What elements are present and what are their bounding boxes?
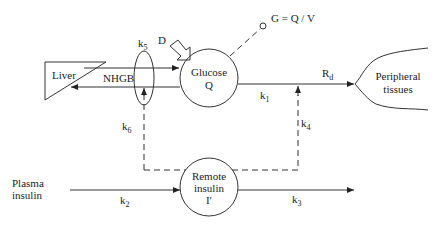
svg-text:tissues: tissues — [383, 83, 412, 95]
svg-text:Peripheral: Peripheral — [375, 70, 420, 82]
dose-input-arrow-icon — [170, 40, 190, 60]
k5-label: k5 — [138, 37, 148, 52]
k2-label: k2 — [120, 194, 130, 209]
k4-dashed-line — [232, 95, 298, 170]
k3-label: k3 — [292, 193, 302, 208]
svg-text:Q: Q — [205, 79, 213, 91]
k1-label: k1 — [260, 89, 270, 104]
liver-label: Liver — [52, 69, 76, 81]
peripheral-tissues-node: Peripheral tissues — [355, 48, 428, 110]
measurement-probe-icon — [260, 23, 266, 29]
svg-text:Glucose: Glucose — [191, 66, 227, 78]
dose-label: D — [158, 34, 166, 46]
k4-label: k4 — [301, 117, 311, 132]
svg-text:insulin: insulin — [194, 182, 224, 194]
glucose-compartment: Glucose Q — [180, 49, 238, 107]
nhgb-label: NHGB — [103, 72, 134, 84]
svg-text:Remote: Remote — [192, 170, 226, 182]
measurement-dashed-line — [230, 29, 260, 56]
plasma-insulin-label-line2: insulin — [12, 189, 42, 201]
k6-label: k6 — [122, 120, 132, 135]
svg-text:I′: I′ — [206, 194, 212, 206]
plasma-insulin-label-line1: Plasma — [12, 177, 44, 189]
measurement-label: G = Q / V — [271, 12, 315, 24]
remote-insulin-compartment: Remote insulin I′ — [180, 158, 238, 216]
rd-label: Rd — [322, 67, 333, 82]
glucose-insulin-model-diagram: Liver NHGB k5 D Glucose Q G = Q / V k1 R… — [0, 0, 440, 230]
